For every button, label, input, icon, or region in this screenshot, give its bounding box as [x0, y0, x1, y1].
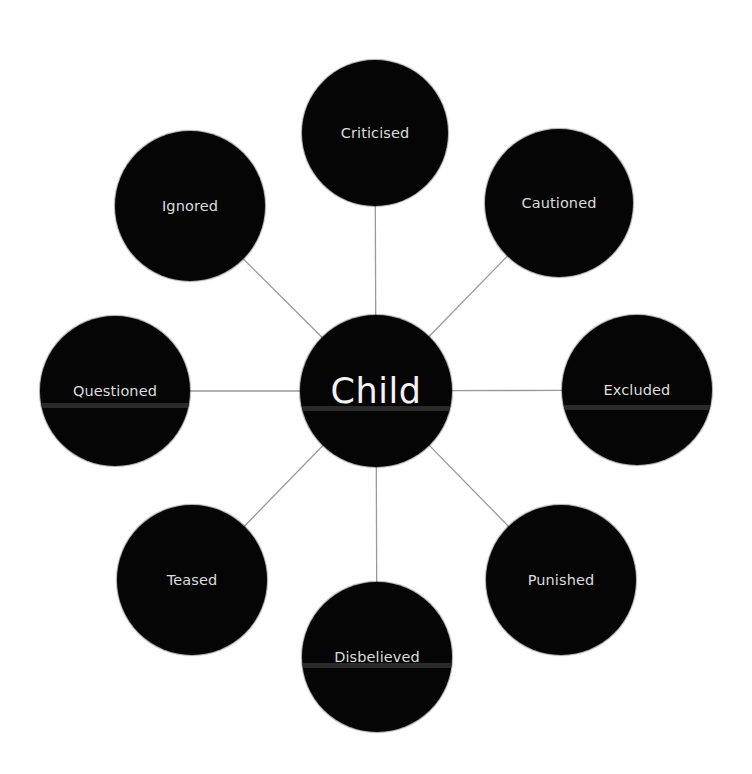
connector-line-ignored	[242, 258, 324, 339]
connector-line-punished	[428, 444, 510, 528]
node-label: Punished	[528, 572, 595, 588]
connector-line-cautioned	[428, 255, 509, 338]
node-label: Disbelieved	[334, 649, 420, 665]
node-label: Criticised	[341, 125, 410, 141]
node-label: Cautioned	[521, 195, 596, 211]
child-experiences-diagram: CriticisedCautionedExcludedPunishedDisbe…	[0, 0, 752, 774]
scan-band	[562, 405, 712, 410]
node-disbelieved: Disbelieved	[302, 582, 452, 732]
scan-band	[40, 403, 190, 408]
node-label: Ignored	[162, 198, 218, 214]
node-punished: Punished	[486, 505, 636, 655]
center-node-child: Child	[300, 315, 452, 467]
node-cautioned: Cautioned	[485, 129, 633, 277]
node-excluded: Excluded	[562, 315, 712, 465]
node-label: Excluded	[604, 382, 671, 398]
node-label: Questioned	[73, 383, 157, 399]
node-ignored: Ignored	[115, 131, 265, 281]
node-label: Teased	[167, 572, 217, 588]
node-criticised: Criticised	[302, 60, 448, 206]
node-questioned: Questioned	[40, 316, 190, 466]
node-teased: Teased	[117, 505, 267, 655]
connector-line-teased	[243, 444, 325, 528]
center-node-label: Child	[331, 371, 422, 411]
